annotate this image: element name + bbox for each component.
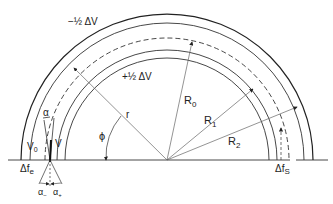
label-V0: V0 (27, 141, 38, 153)
label-phi: ϕ (99, 130, 105, 142)
label-alpha: α (43, 107, 49, 118)
semicircular-arc-diagram: −½ ΔV +½ ΔV r ϕ R0 R1 R2 α V0 V Δfe ΔfS … (0, 0, 333, 204)
phi-arc (106, 116, 121, 160)
arc-R1 (57, 50, 277, 160)
v0-line (44, 120, 50, 160)
label-alpha-minus: α− (38, 187, 47, 198)
outer-arc (21, 14, 313, 160)
entrance-beam (50, 140, 51, 162)
label-alpha-plus: α+ (53, 187, 62, 198)
label-R0: R0 (184, 94, 197, 109)
dashed-arc-R0 (45, 38, 289, 160)
arc-R2 (30, 23, 304, 160)
label-V: V (55, 138, 62, 149)
alpha-minus-dim (40, 183, 49, 184)
label-r: r (126, 109, 130, 120)
radius-R2 (167, 107, 297, 160)
label-R1: R1 (204, 114, 217, 129)
label-minus-half-dv: −½ ΔV (68, 16, 98, 27)
cone-left (39, 160, 50, 184)
label-R2: R2 (228, 135, 241, 150)
alpha-plus-dim (51, 183, 61, 184)
label-plus-half-dv: +½ ΔV (122, 71, 152, 82)
label-dfe: Δfe (20, 163, 34, 176)
radius-r (74, 68, 167, 160)
cone-right (50, 160, 62, 184)
label-dfs: ΔfS (275, 163, 290, 176)
